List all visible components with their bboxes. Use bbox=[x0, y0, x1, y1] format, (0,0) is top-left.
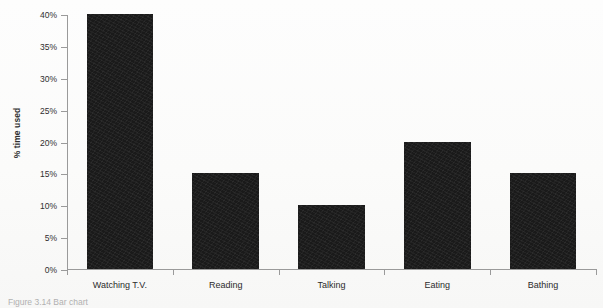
figure-caption-clipped: Figure 3.14 Bar chart bbox=[8, 299, 328, 308]
y-tick-label: 40% bbox=[40, 10, 57, 20]
x-category-label: Reading bbox=[209, 280, 243, 290]
x-tick-mark bbox=[173, 269, 174, 275]
bar-chart-figure: % time used 0%5%10%15%20%25%30%35%40% Wa… bbox=[0, 0, 603, 295]
x-tick-mark bbox=[490, 269, 491, 275]
plot-area: 0%5%10%15%20%25%30%35%40% Watching T.V.R… bbox=[67, 15, 596, 270]
figure-caption-text: Figure 3.14 Bar chart bbox=[8, 299, 328, 307]
y-tick-mark bbox=[61, 47, 68, 48]
x-tick-mark bbox=[67, 269, 68, 275]
x-tick-mark bbox=[384, 269, 385, 275]
x-category-label: Eating bbox=[425, 280, 451, 290]
bar bbox=[404, 142, 471, 270]
x-category-label: Watching T.V. bbox=[93, 280, 147, 290]
bar bbox=[298, 205, 365, 269]
y-tick-mark bbox=[61, 238, 68, 239]
x-axis-line bbox=[67, 269, 596, 270]
y-tick-label: 15% bbox=[40, 169, 57, 179]
y-tick-mark bbox=[61, 206, 68, 207]
y-tick-label: 35% bbox=[40, 42, 57, 52]
y-tick-label: 25% bbox=[40, 106, 57, 116]
x-category-label: Bathing bbox=[528, 280, 559, 290]
y-tick-label: 30% bbox=[40, 74, 57, 84]
y-tick-mark bbox=[61, 111, 68, 112]
x-category-label: Talking bbox=[317, 280, 345, 290]
y-tick-label: 10% bbox=[40, 201, 57, 211]
y-tick-label: 0% bbox=[45, 265, 57, 275]
bar bbox=[87, 14, 154, 269]
bar bbox=[192, 173, 259, 269]
x-tick-mark bbox=[279, 269, 280, 275]
y-tick-mark bbox=[61, 174, 68, 175]
y-tick-mark bbox=[61, 15, 68, 16]
y-tick-label: 5% bbox=[45, 233, 57, 243]
x-tick-mark bbox=[596, 269, 597, 275]
y-axis-title: % time used bbox=[12, 88, 22, 178]
y-tick-mark bbox=[61, 143, 68, 144]
bar bbox=[510, 173, 577, 269]
y-tick-mark bbox=[61, 79, 68, 80]
y-tick-label: 20% bbox=[40, 138, 57, 148]
